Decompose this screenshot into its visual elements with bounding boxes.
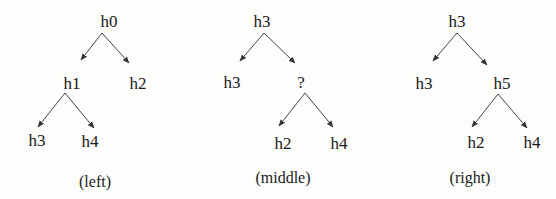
panel-left: h0 h1 h2 h3 h4 (left) (29, 12, 147, 191)
node-h4: h4 (82, 132, 100, 151)
edge-root-h3 (433, 33, 457, 61)
node-unknown: ? (297, 73, 305, 92)
caption-left: (left) (79, 173, 111, 191)
edge-q-h4 (305, 93, 333, 127)
node-h4: h4 (524, 133, 542, 152)
edge-root-q (264, 33, 295, 63)
edge-h5-h2 (472, 94, 498, 127)
edge-root-h3 (240, 33, 264, 61)
edge-h1-h3 (38, 93, 65, 127)
edge-h1-h4 (65, 93, 94, 128)
edge-q-h2 (279, 93, 305, 126)
node-h0: h0 (101, 12, 118, 31)
diagram-canvas: h0 h1 h2 h3 h4 (left) h3 h3 ? h2 h4 (mid… (0, 0, 556, 199)
edge-root-h5 (457, 33, 487, 65)
node-h2: h2 (275, 134, 292, 153)
node-h1: h1 (64, 74, 81, 93)
edge-h0-h1 (81, 33, 102, 60)
node-root-h3: h3 (449, 12, 466, 31)
node-h4: h4 (331, 134, 349, 153)
node-h3: h3 (416, 74, 433, 93)
panel-right: h3 h3 h5 h2 h4 (right) (416, 12, 542, 187)
edge-h0-h2 (102, 33, 129, 63)
panel-middle: h3 h3 ? h2 h4 (middle) (224, 12, 349, 187)
caption-middle: (middle) (255, 169, 310, 187)
node-h2: h2 (468, 133, 485, 152)
node-root-h3: h3 (254, 12, 271, 31)
node-h3: h3 (224, 73, 241, 92)
node-h5: h5 (494, 74, 511, 93)
caption-right: (right) (450, 169, 491, 187)
node-h3: h3 (29, 131, 46, 150)
tree-diagram-figure: h0 h1 h2 h3 h4 (left) h3 h3 ? h2 h4 (mid… (0, 0, 556, 199)
edge-h5-h4 (498, 94, 527, 128)
node-h2: h2 (130, 74, 147, 93)
